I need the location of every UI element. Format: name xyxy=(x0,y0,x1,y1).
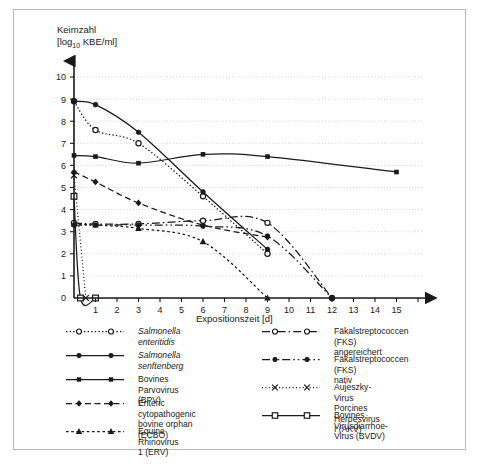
legend-line-sample-icon xyxy=(260,354,326,365)
legend-item[interactable]: Salmonella senftenberg xyxy=(64,350,183,371)
figure-frame: Keimzahl [log10 KBE/ml] Expositionszeit … xyxy=(13,9,466,450)
legend-item[interactable]: Equine Rhinovirus 1 (ERV) xyxy=(64,426,179,458)
legend-line-sample-icon xyxy=(64,374,130,385)
legend-item[interactable]: Bovines Virusdiarrhoe- Virus (BVDV) xyxy=(260,410,388,442)
legend-item[interactable]: Fäkalstreptococcen (FKS) angereichert xyxy=(260,326,409,358)
legend-item-label: Salmonella senftenberg xyxy=(130,350,183,371)
legend-line-sample-icon xyxy=(260,326,326,337)
svg-text:8: 8 xyxy=(243,305,248,315)
legend-item[interactable]: Fäkalstreptococcen (FKS) nativ xyxy=(260,354,409,386)
legend-line-sample-icon xyxy=(64,350,130,361)
legend-line-sample-icon xyxy=(64,426,130,437)
legend-item-label: Fäkalstreptococcen (FKS) nativ xyxy=(326,354,409,386)
svg-text:1: 1 xyxy=(93,305,98,315)
svg-text:4: 4 xyxy=(61,205,66,215)
svg-text:0: 0 xyxy=(61,293,66,303)
legend-line-sample-icon xyxy=(260,382,326,393)
legend-item[interactable]: Salmonella enteritidis xyxy=(64,326,181,347)
svg-text:11: 11 xyxy=(306,305,315,315)
svg-text:9: 9 xyxy=(61,95,66,105)
svg-text:2: 2 xyxy=(61,249,66,259)
svg-text:9: 9 xyxy=(265,305,270,315)
svg-text:10: 10 xyxy=(284,305,294,315)
legend-line-sample-icon xyxy=(64,398,130,409)
legend-item-label: Equine Rhinovirus 1 (ERV) xyxy=(130,426,179,458)
svg-text:7: 7 xyxy=(61,139,66,149)
data-series-layer xyxy=(71,99,399,306)
legend-item-label: Salmonella enteritidis xyxy=(130,326,181,347)
svg-text:5: 5 xyxy=(61,183,66,193)
svg-text:10: 10 xyxy=(56,72,66,82)
axis-lines xyxy=(70,61,436,302)
svg-text:4: 4 xyxy=(157,305,162,315)
svg-text:12: 12 xyxy=(327,305,337,315)
svg-text:13: 13 xyxy=(348,305,358,315)
legend-line-sample-icon xyxy=(64,326,130,337)
grid-lines xyxy=(74,77,424,298)
legend-line-sample-icon xyxy=(260,410,326,421)
axis-tick-labels: 012345678910123456789101112131415 xyxy=(56,72,402,315)
svg-text:3: 3 xyxy=(61,227,66,237)
svg-text:3: 3 xyxy=(136,305,141,315)
svg-text:7: 7 xyxy=(222,305,227,315)
svg-text:1: 1 xyxy=(61,271,66,281)
legend-item-label: Bovines Virusdiarrhoe- Virus (BVDV) xyxy=(326,410,388,442)
svg-text:6: 6 xyxy=(61,161,66,171)
svg-text:6: 6 xyxy=(200,305,205,315)
svg-text:5: 5 xyxy=(179,305,184,315)
svg-text:14: 14 xyxy=(370,305,380,315)
svg-text:15: 15 xyxy=(391,305,401,315)
svg-text:8: 8 xyxy=(61,117,66,127)
svg-text:2: 2 xyxy=(114,305,119,315)
legend-item-label: Fäkalstreptococcen (FKS) angereichert xyxy=(326,326,409,358)
